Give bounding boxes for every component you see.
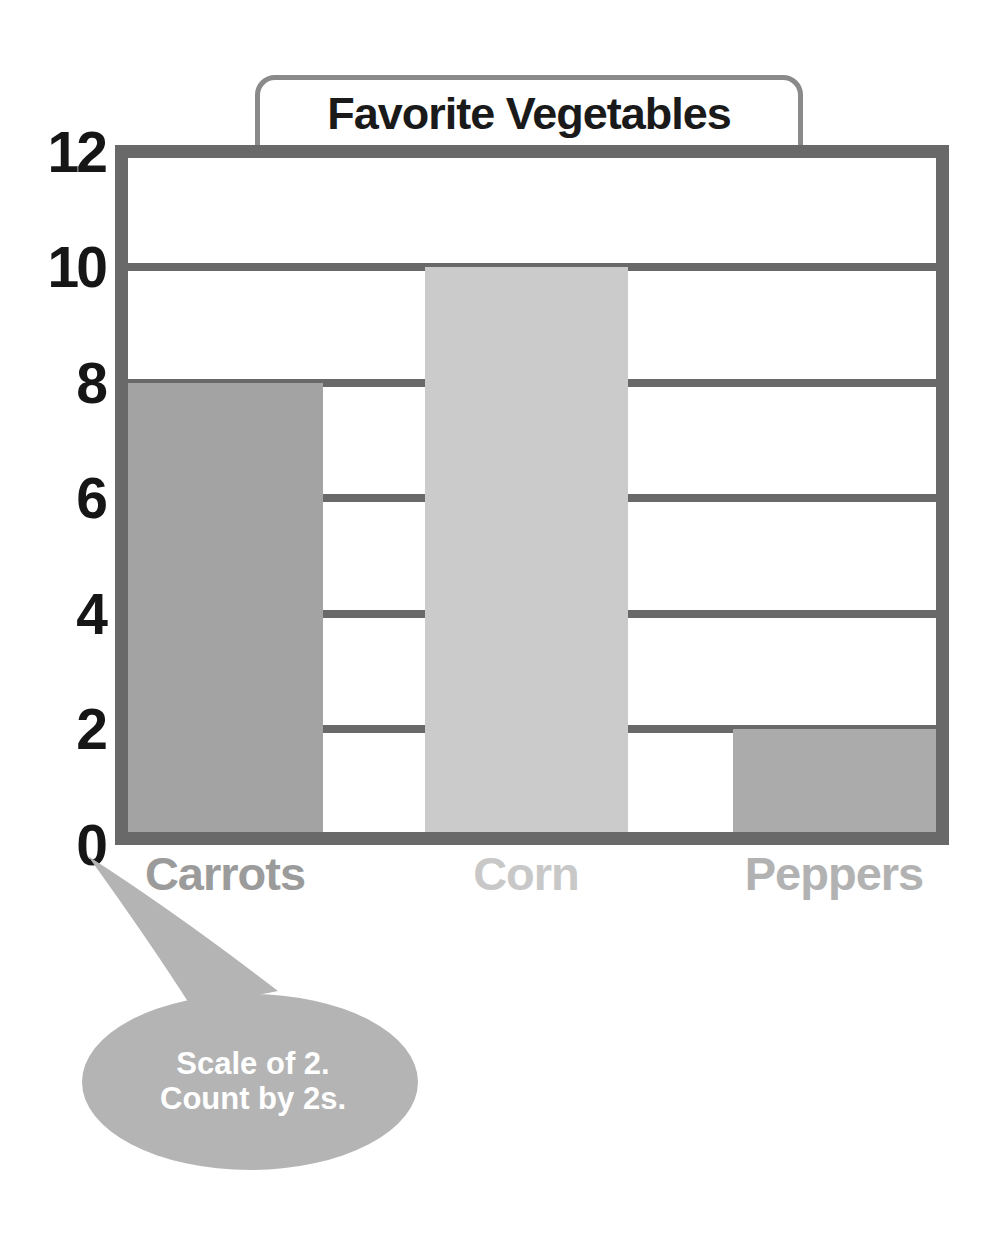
- callout-line-2: Count by 2s.: [160, 1081, 346, 1116]
- callout-bubble: [0, 0, 1007, 1236]
- callout-line-1: Scale of 2.: [160, 1046, 346, 1081]
- callout-tail: [88, 856, 278, 1008]
- callout-text: Scale of 2. Count by 2s.: [160, 1046, 346, 1116]
- bar-graph-page: Favorite Vegetables 121086420 CarrotsCor…: [0, 0, 1007, 1236]
